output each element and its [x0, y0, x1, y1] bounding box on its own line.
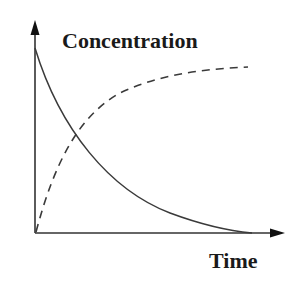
x-axis-arrow-icon	[270, 229, 285, 238]
x-axis-label: Time	[209, 248, 258, 273]
y-axis-arrow-icon	[31, 20, 40, 35]
rise-curve	[36, 67, 248, 232]
decay-curve	[35, 48, 252, 233]
concentration-time-diagram: Concentration Time	[0, 0, 292, 288]
y-axis-label: Concentration	[62, 28, 198, 53]
